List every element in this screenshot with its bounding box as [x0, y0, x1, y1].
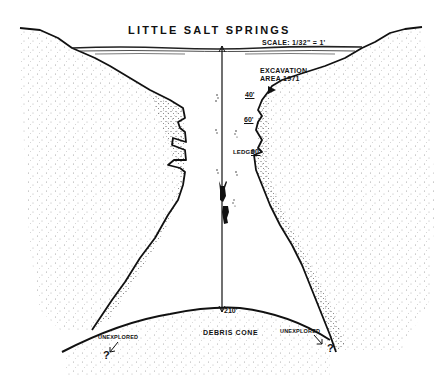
- depth-90-label: 90': [251, 148, 260, 155]
- question-mark-left: ?: [103, 350, 110, 361]
- diagram-drawing: [0, 0, 442, 375]
- depth-210-label: 210': [224, 307, 237, 314]
- scale-label: SCALE: 1/32" = 1': [262, 39, 326, 46]
- depth-60-label: 60': [244, 116, 253, 123]
- water-surface: [72, 47, 362, 54]
- diver-lower: [222, 206, 229, 224]
- depth-40-label: 40': [245, 91, 254, 98]
- excavation-label-line2: AREA 1971: [260, 75, 307, 83]
- debris-cone-label: DEBRIS CONE: [203, 329, 258, 336]
- depth-rope: [219, 46, 225, 312]
- excavation-label-line1: EXCAVATION: [260, 67, 307, 75]
- excavation-area-label: EXCAVATION AREA 1971: [260, 67, 307, 83]
- sinkhole-cross-section-diagram: LITTLE SALT SPRINGS SCALE: 1/32" = 1' EX…: [0, 0, 442, 375]
- unexplored-left-label: UNEXPLORED: [98, 335, 138, 341]
- question-mark-right: ?: [327, 343, 334, 354]
- unexplored-right-label: UNEXPLORED: [280, 329, 320, 335]
- left-wall: [20, 28, 186, 330]
- diagram-title: LITTLE SALT SPRINGS: [128, 25, 291, 36]
- diver-upper: [219, 181, 227, 202]
